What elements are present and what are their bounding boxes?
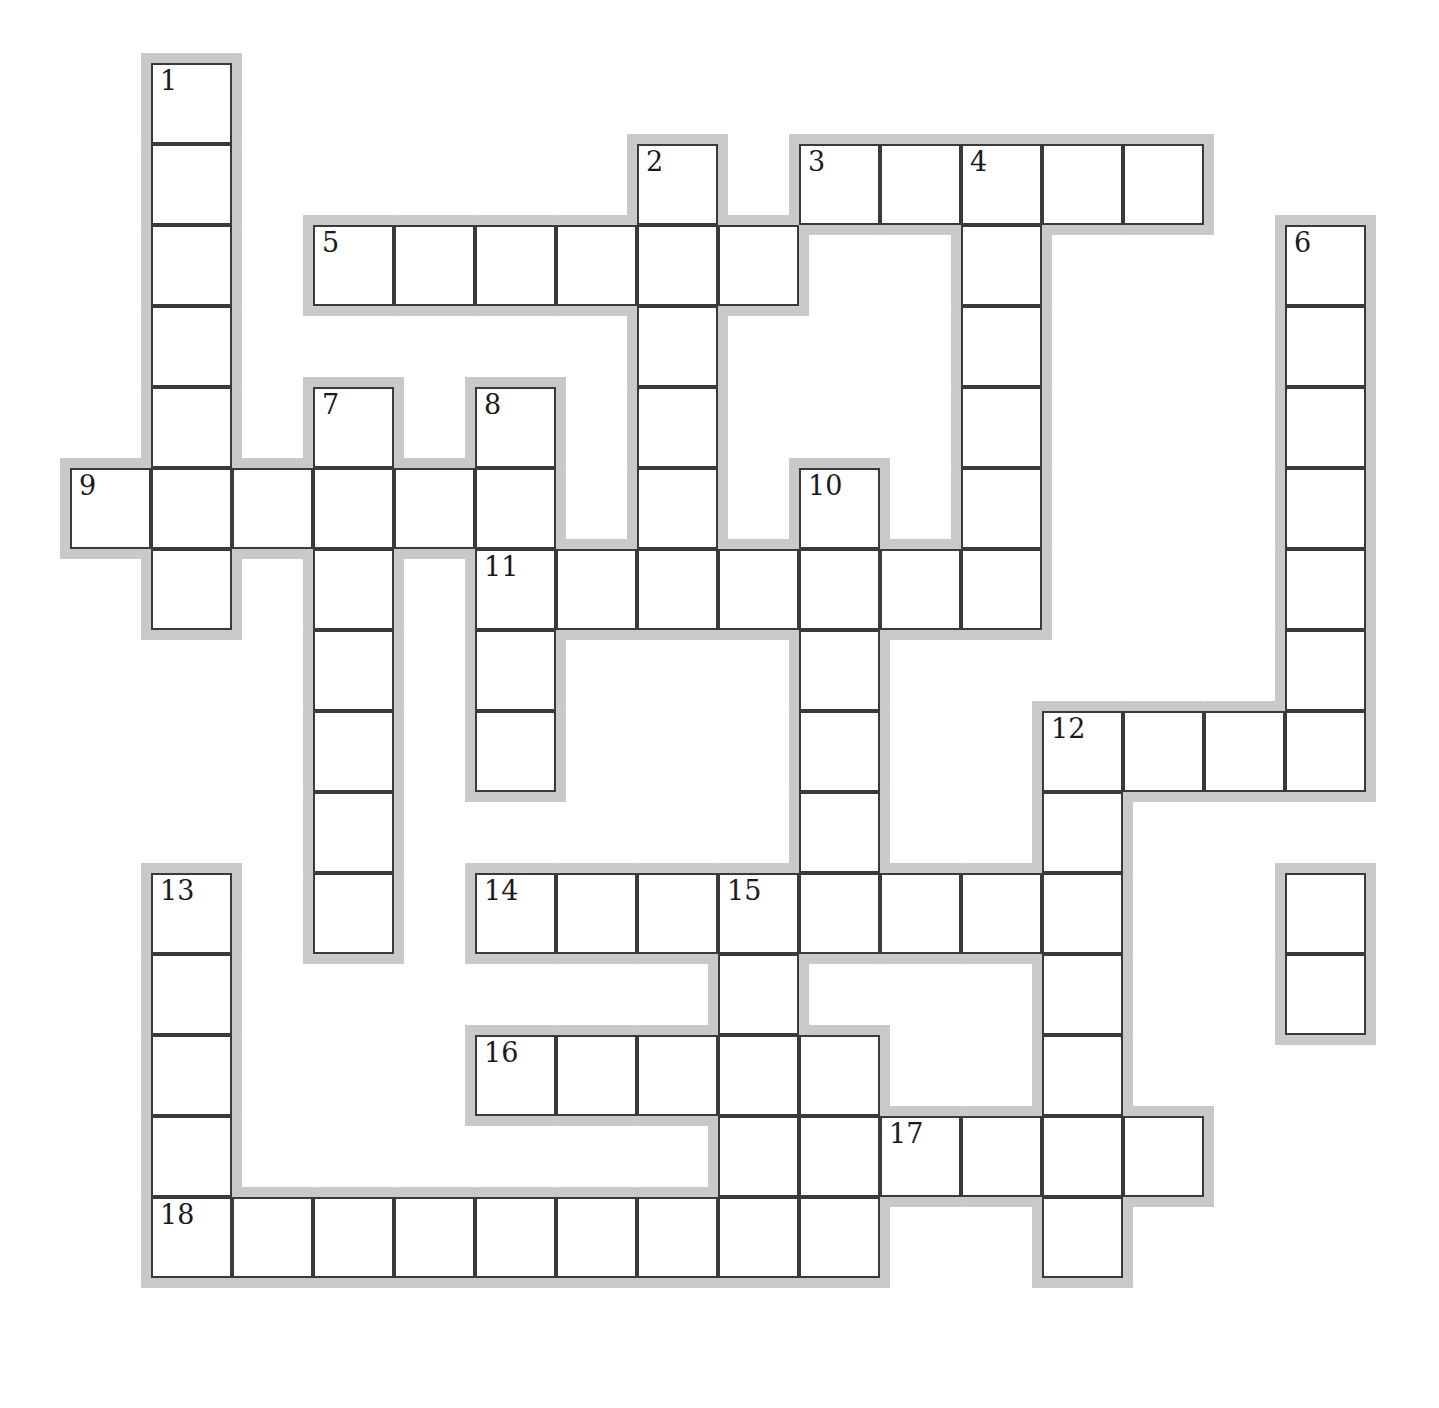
crossword-cell[interactable]: [394, 1197, 475, 1278]
crossword-grid[interactable]: 123456789101112131415161718: [0, 0, 1439, 1408]
crossword-cell[interactable]: [151, 306, 232, 387]
crossword-cell[interactable]: [718, 1035, 799, 1116]
crossword-cell-numbered[interactable]: 14: [475, 873, 556, 954]
crossword-cell-numbered[interactable]: 16: [475, 1035, 556, 1116]
crossword-cell[interactable]: [1204, 711, 1285, 792]
crossword-cell[interactable]: [556, 549, 637, 630]
crossword-cell[interactable]: [961, 306, 1042, 387]
crossword-cell[interactable]: [799, 711, 880, 792]
crossword-cell[interactable]: [1285, 954, 1366, 1035]
crossword-cell[interactable]: [637, 549, 718, 630]
crossword-cell-numbered[interactable]: 11: [475, 549, 556, 630]
crossword-cell[interactable]: [556, 873, 637, 954]
crossword-cell[interactable]: [1285, 549, 1366, 630]
crossword-cell[interactable]: [799, 1197, 880, 1278]
crossword-cell[interactable]: [475, 630, 556, 711]
crossword-cell[interactable]: [556, 225, 637, 306]
crossword-cell[interactable]: [799, 549, 880, 630]
crossword-cell[interactable]: [637, 225, 718, 306]
crossword-cell[interactable]: [961, 468, 1042, 549]
crossword-cell[interactable]: [1042, 792, 1123, 873]
crossword-cell[interactable]: [1042, 954, 1123, 1035]
crossword-cell[interactable]: [475, 468, 556, 549]
crossword-cell[interactable]: [475, 1197, 556, 1278]
crossword-cell[interactable]: [151, 468, 232, 549]
crossword-cell[interactable]: [313, 549, 394, 630]
crossword-cell[interactable]: [1042, 1035, 1123, 1116]
crossword-cell[interactable]: [880, 144, 961, 225]
crossword-cell[interactable]: [880, 873, 961, 954]
crossword-cell-numbered[interactable]: 1: [151, 63, 232, 144]
crossword-cell-numbered[interactable]: 10: [799, 468, 880, 549]
crossword-cell-numbered[interactable]: 6: [1285, 225, 1366, 306]
crossword-cell[interactable]: [394, 225, 475, 306]
crossword-cell[interactable]: [313, 873, 394, 954]
crossword-cell[interactable]: [799, 630, 880, 711]
crossword-cell[interactable]: [718, 549, 799, 630]
crossword-cell[interactable]: [718, 954, 799, 1035]
crossword-cell[interactable]: [718, 1197, 799, 1278]
crossword-cell[interactable]: [313, 630, 394, 711]
crossword-cell[interactable]: [799, 1035, 880, 1116]
crossword-cell[interactable]: [1285, 630, 1366, 711]
crossword-cell[interactable]: [151, 225, 232, 306]
crossword-cell-numbered[interactable]: 4: [961, 144, 1042, 225]
crossword-cell-numbered[interactable]: 8: [475, 387, 556, 468]
crossword-cell[interactable]: [313, 468, 394, 549]
crossword-cell-numbered[interactable]: 12: [1042, 711, 1123, 792]
crossword-cell-numbered[interactable]: 17: [880, 1116, 961, 1197]
crossword-cell[interactable]: [718, 225, 799, 306]
crossword-cell[interactable]: [1285, 306, 1366, 387]
crossword-cell[interactable]: [475, 711, 556, 792]
crossword-cell[interactable]: [151, 387, 232, 468]
crossword-cell[interactable]: [961, 873, 1042, 954]
crossword-cell[interactable]: [961, 225, 1042, 306]
crossword-cell[interactable]: [637, 1197, 718, 1278]
crossword-cell-numbered[interactable]: 7: [313, 387, 394, 468]
crossword-cell[interactable]: [1285, 873, 1366, 954]
crossword-cell[interactable]: [151, 144, 232, 225]
crossword-cell[interactable]: [880, 549, 961, 630]
crossword-cell[interactable]: [799, 792, 880, 873]
crossword-cell[interactable]: [1285, 387, 1366, 468]
crossword-cell[interactable]: [799, 873, 880, 954]
crossword-cell[interactable]: [394, 468, 475, 549]
crossword-cell[interactable]: [718, 1116, 799, 1197]
crossword-cell[interactable]: [961, 1116, 1042, 1197]
crossword-cell[interactable]: [151, 1035, 232, 1116]
crossword-cell[interactable]: [313, 711, 394, 792]
crossword-cell[interactable]: [637, 468, 718, 549]
crossword-cell-numbered[interactable]: 5: [313, 225, 394, 306]
crossword-cell[interactable]: [961, 549, 1042, 630]
crossword-cell-numbered[interactable]: 15: [718, 873, 799, 954]
crossword-cell[interactable]: [313, 792, 394, 873]
crossword-cell-numbered[interactable]: 3: [799, 144, 880, 225]
crossword-cell[interactable]: [556, 1197, 637, 1278]
crossword-cell[interactable]: [961, 387, 1042, 468]
crossword-cell[interactable]: [637, 1035, 718, 1116]
crossword-cell[interactable]: [637, 306, 718, 387]
crossword-cell[interactable]: [313, 1197, 394, 1278]
crossword-cell[interactable]: [151, 954, 232, 1035]
crossword-cell[interactable]: [1285, 711, 1366, 792]
crossword-cell[interactable]: [151, 1116, 232, 1197]
crossword-cell[interactable]: [1042, 873, 1123, 954]
crossword-cell[interactable]: [1123, 1116, 1204, 1197]
crossword-cell[interactable]: [151, 549, 232, 630]
crossword-cell-numbered[interactable]: 9: [70, 468, 151, 549]
crossword-cell[interactable]: [1123, 711, 1204, 792]
crossword-cell[interactable]: [475, 225, 556, 306]
crossword-cell[interactable]: [1042, 1116, 1123, 1197]
crossword-cell[interactable]: [637, 387, 718, 468]
crossword-cell[interactable]: [799, 1116, 880, 1197]
crossword-cell[interactable]: [556, 1035, 637, 1116]
crossword-cell[interactable]: [1285, 468, 1366, 549]
crossword-cell[interactable]: [1123, 144, 1204, 225]
crossword-cell-numbered[interactable]: 13: [151, 873, 232, 954]
crossword-cell[interactable]: [232, 1197, 313, 1278]
crossword-cell[interactable]: [232, 468, 313, 549]
crossword-cell-numbered[interactable]: 2: [637, 144, 718, 225]
crossword-cell[interactable]: [1042, 1197, 1123, 1278]
crossword-cell[interactable]: [1042, 144, 1123, 225]
crossword-cell[interactable]: [637, 873, 718, 954]
